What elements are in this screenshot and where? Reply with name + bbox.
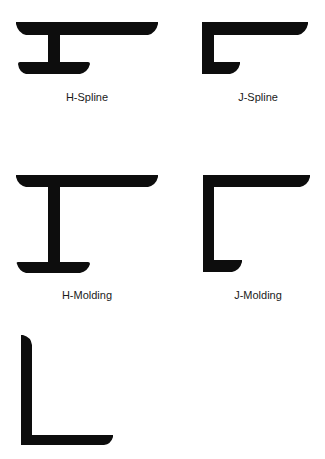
l-angle-profile (21, 335, 113, 445)
h-spline-label: H-Spline (37, 91, 137, 104)
h-molding-label: H-Molding (37, 289, 137, 302)
j-molding-label: J-Molding (208, 289, 308, 302)
h-molding-profile (16, 175, 158, 273)
profiles-diagram (0, 0, 325, 459)
j-spline-profile (202, 22, 308, 74)
j-molding-profile (203, 175, 310, 272)
j-spline-label: J-Spline (208, 91, 308, 104)
h-spline-profile (16, 22, 158, 74)
